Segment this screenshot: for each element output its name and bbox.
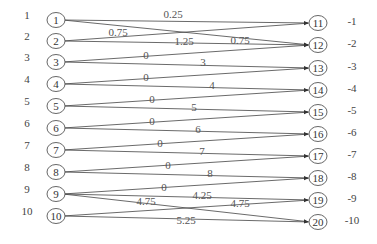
edge-5-14 [65, 90, 309, 106]
edge-8-17 [65, 156, 309, 172]
supply-label: 2 [24, 30, 30, 42]
node-id: 9 [53, 188, 59, 200]
edge-weight-label: 4.75 [136, 195, 156, 207]
demand-label: -3 [347, 60, 357, 72]
node-id: 10 [51, 210, 63, 222]
node-id: 14 [313, 84, 325, 96]
edge-weight-label: 8 [207, 167, 213, 179]
source-node-3: 33 [24, 51, 65, 70]
demand-label: -4 [347, 82, 357, 94]
supply-label: 3 [24, 51, 30, 63]
demand-label: -7 [347, 148, 357, 160]
sink-nodes: 11-112-213-314-415-516-617-718-819-920-1… [309, 15, 360, 230]
edge-weight-label: 0.75 [108, 26, 128, 38]
source-nodes: 1122334455667788991010 [22, 9, 66, 224]
edge-6-15 [65, 112, 309, 128]
edge-weight-label: 3 [200, 56, 206, 68]
sink-node-18: 18-8 [309, 170, 357, 186]
edge-weight-label: 5 [191, 101, 197, 113]
node-id: 8 [53, 166, 59, 178]
edge-weight-label: 0.75 [230, 34, 250, 46]
edge-weight-label: 4.25 [192, 189, 212, 201]
edge-weight-label: 7 [199, 145, 205, 157]
edge-3-13 [65, 62, 309, 68]
source-node-6: 66 [24, 117, 65, 136]
source-node-1: 11 [24, 9, 65, 28]
sink-node-11: 11-1 [309, 15, 357, 31]
edge-weight-label: 0 [157, 137, 163, 149]
source-node-10: 1010 [22, 205, 66, 224]
edge-7-17 [65, 150, 309, 156]
node-id: 2 [53, 35, 59, 47]
edge-6-16 [65, 128, 309, 134]
edges-layer [65, 20, 309, 222]
demand-label: -6 [347, 126, 357, 138]
sink-node-17: 17-7 [309, 148, 357, 164]
node-id: 16 [313, 128, 325, 140]
sink-node-12: 12-2 [309, 37, 357, 53]
node-id: 18 [313, 172, 325, 184]
source-node-8: 88 [24, 161, 65, 180]
sink-node-15: 15-5 [309, 104, 357, 120]
supply-label: 8 [24, 161, 30, 173]
demand-label: -8 [347, 170, 357, 182]
edge-4-13 [65, 68, 309, 84]
sink-node-16: 16-6 [309, 126, 357, 142]
source-node-2: 22 [24, 30, 65, 49]
node-id: 13 [313, 62, 325, 74]
edge-5-15 [65, 106, 309, 112]
demand-label: -10 [345, 214, 360, 226]
node-id: 19 [313, 194, 325, 206]
node-id: 20 [313, 216, 325, 228]
node-id: 5 [53, 100, 59, 112]
edge-8-18 [65, 172, 309, 178]
source-node-7: 77 [24, 139, 65, 158]
sink-node-13: 13-3 [309, 60, 357, 76]
edge-weight-label: 0 [143, 71, 149, 83]
sink-node-19: 19-9 [309, 192, 357, 208]
source-node-9: 99 [24, 183, 65, 202]
supply-label: 1 [24, 9, 30, 21]
supply-label: 6 [24, 117, 30, 129]
supply-label: 4 [24, 73, 30, 85]
edge-7-16 [65, 134, 309, 150]
node-id: 11 [313, 17, 324, 29]
edge-9-18 [65, 178, 309, 194]
node-id: 15 [313, 106, 325, 118]
edge-weight-label: 1.25 [174, 35, 194, 47]
demand-label: -1 [347, 15, 356, 27]
edge-4-14 [65, 84, 309, 90]
edge-weight-label: 5.25 [176, 214, 196, 226]
demand-label: -2 [347, 37, 356, 49]
supply-label: 9 [24, 183, 30, 195]
node-id: 12 [313, 39, 324, 51]
flow-network-diagram: 0.250.750.751.2503040506070804.254.754.7… [0, 0, 377, 244]
node-id: 4 [53, 78, 59, 90]
edge-weight-label: 0.25 [163, 8, 183, 20]
supply-label: 10 [22, 205, 34, 217]
edge-weight-label: 4.75 [230, 197, 250, 209]
edge-9-19 [65, 194, 309, 200]
demand-label: -5 [347, 104, 357, 116]
edge-weight-label: 0 [165, 159, 171, 171]
edge-3-12 [65, 45, 309, 62]
source-node-4: 44 [24, 73, 65, 92]
node-id: 17 [313, 150, 325, 162]
edge-weight-label: 0 [161, 181, 167, 193]
edge-1-11 [65, 20, 309, 23]
edge-weight-label: 4 [209, 79, 215, 91]
supply-label: 7 [24, 139, 30, 151]
edge-weight-label: 6 [195, 123, 201, 135]
node-id: 3 [53, 56, 59, 68]
node-id: 1 [53, 14, 59, 26]
supply-label: 5 [24, 95, 30, 107]
source-node-5: 55 [24, 95, 65, 114]
edge-weight-label: 0 [149, 115, 155, 127]
edge-weight-label: 0 [143, 49, 149, 61]
node-id: 7 [53, 144, 59, 156]
node-id: 6 [53, 122, 59, 134]
sink-node-20: 20-10 [309, 214, 360, 230]
demand-label: -9 [347, 192, 357, 204]
sink-node-14: 14-4 [309, 82, 357, 98]
edge-weight-label: 0 [149, 93, 155, 105]
